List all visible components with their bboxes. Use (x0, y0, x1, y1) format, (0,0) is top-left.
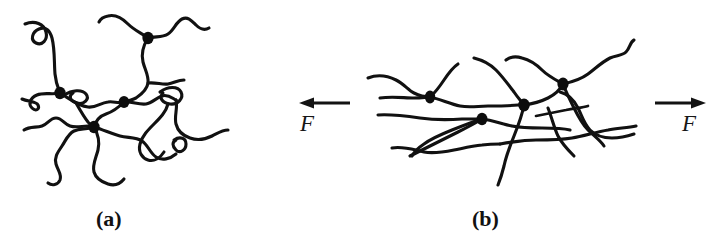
chain-b-17 (474, 58, 524, 105)
chain-a-loop-3 (173, 138, 186, 152)
crosslink-a-2 (142, 32, 153, 44)
chain-a-1 (25, 22, 60, 93)
chain-a-6 (99, 15, 148, 38)
crosslink-b-2 (477, 113, 488, 125)
force-label-right: F (682, 112, 696, 135)
chain-b-11 (563, 40, 634, 84)
chain-b-18 (548, 108, 574, 156)
chain-b-10 (506, 57, 563, 84)
chain-b-2 (380, 97, 430, 98)
crosslink-b-4 (557, 78, 568, 91)
chain-a-2 (22, 93, 60, 110)
chain-b-7 (482, 119, 570, 130)
panel-a-crosslinks (54, 32, 153, 133)
crosslink-a-3 (119, 96, 130, 108)
force-label-left: F (300, 112, 314, 135)
force-arrow-right (655, 98, 706, 109)
chain-a-16 (148, 80, 184, 84)
crosslink-a-4 (88, 121, 99, 133)
crosslink-b-3 (518, 99, 530, 112)
force-arrow-left-head (299, 98, 314, 109)
chain-a-10 (48, 127, 94, 185)
panel-label-a: (a) (96, 208, 122, 230)
crosslink-a-1 (54, 87, 65, 99)
chain-a-7 (148, 18, 209, 38)
polymer-network-figure: F F (a) (b) (0, 0, 721, 251)
crosslink-b-1 (425, 91, 435, 104)
panel-label-b: (b) (472, 208, 499, 230)
chain-a-15 (139, 104, 168, 161)
chain-a-14 (175, 100, 228, 139)
chain-b-3 (430, 97, 524, 107)
force-arrow-right-head (691, 98, 706, 109)
chain-b-4 (378, 115, 482, 120)
chain-a-5 (124, 38, 148, 102)
chain-b-9 (524, 84, 563, 105)
panel-b-chains (368, 40, 636, 185)
chain-b-15 (392, 144, 500, 153)
chain-b-16 (430, 64, 458, 97)
chain-b-1 (368, 76, 430, 97)
force-arrow-left (299, 98, 350, 109)
